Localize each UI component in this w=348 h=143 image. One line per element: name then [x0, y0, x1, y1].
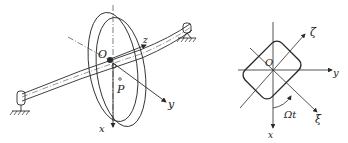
- rotor-figure: O P z y x: [10, 5, 196, 134]
- origin-point: [107, 57, 113, 63]
- label-xi: ξ: [315, 113, 322, 126]
- label-origin: O: [98, 48, 107, 61]
- xi-axis-arrow: [250, 48, 317, 112]
- angle-arc: [273, 96, 291, 108]
- label-z: z: [142, 35, 148, 45]
- point-p-marker: [119, 78, 122, 81]
- label-p: P: [116, 83, 125, 96]
- label-zeta: ζ: [310, 26, 317, 39]
- label-y: y: [167, 98, 175, 111]
- diagram-canvas: O P z y x O ζ y ξ Ωt x: [0, 0, 348, 143]
- z-axis-arrow: [108, 45, 146, 60]
- label-y-right: y: [332, 67, 339, 78]
- label-x-right: x: [268, 130, 273, 140]
- label-omega-t: Ωt: [283, 109, 297, 120]
- label-x: x: [99, 123, 105, 134]
- label-origin-right: O: [265, 57, 273, 68]
- left-bearing: [10, 91, 30, 115]
- cross-section-figure: O ζ y ξ Ωt x: [238, 22, 339, 140]
